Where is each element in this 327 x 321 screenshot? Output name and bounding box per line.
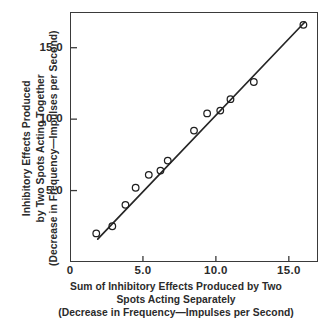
y-axis-label-line-1: Inhibitory Effects Produced	[20, 23, 34, 273]
y-axis-ticks	[70, 48, 77, 191]
x-axis-label: Sum of Inhibitory Effects Produced by Tw…	[40, 280, 312, 319]
plot-area	[70, 12, 318, 262]
data-point	[204, 110, 211, 117]
data-point	[145, 172, 152, 179]
x-axis-label-line-3: (Decrease in Frequency—Impulses per Seco…	[40, 306, 312, 319]
x-tick-label: 15.0	[269, 264, 309, 276]
data-point	[191, 127, 198, 134]
x-tick-label: 10.0	[196, 264, 236, 276]
y-axis-label-line-3: (Decrease in Frequency—Impulses per Seco…	[47, 23, 61, 273]
x-axis-label-line-2: Spots Acting Separately	[40, 293, 312, 306]
figure-root: 05.010.015.0 5.010.015.0 Sum of Inhibito…	[0, 0, 327, 321]
y-axis-label-line-2: by Two Spots Acting Together	[33, 23, 47, 273]
data-point	[93, 230, 100, 237]
data-point	[132, 184, 139, 191]
x-axis-ticks	[143, 256, 289, 262]
x-tick-label: 5.0	[123, 264, 163, 276]
data-point	[251, 79, 258, 86]
x-axis-label-line-1: Sum of Inhibitory Effects Produced by Tw…	[40, 280, 312, 293]
y-axis-label: Inhibitory Effects Produced by Two Spots…	[20, 23, 61, 273]
data-point	[122, 202, 129, 209]
data-point	[164, 157, 171, 164]
